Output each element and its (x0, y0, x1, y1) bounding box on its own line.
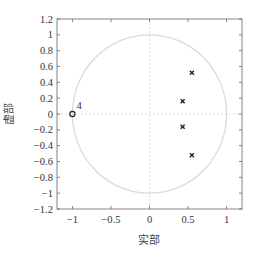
x-axis-label: 实部 (138, 233, 160, 246)
y-tick-label: 0 (48, 109, 53, 120)
x-axis-ticks: −1−0.500.51 (67, 19, 229, 225)
plot-area: 4 (57, 19, 242, 209)
y-tick-label: −0.8 (34, 172, 53, 183)
y-tick-label: −0.2 (34, 124, 53, 135)
x-tick-label: 1 (224, 214, 229, 225)
y-axis-label: 虚部 (2, 103, 15, 125)
pole-zero-chart: 4 −1−0.500.51 1.210.80.60.40.20−0.2−0.4−… (0, 0, 259, 254)
x-tick-label: −0.5 (101, 214, 120, 225)
pole-marker (190, 153, 194, 157)
y-tick-label: −1 (42, 188, 53, 199)
y-tick-label: 0.8 (40, 45, 53, 56)
y-tick-label: −1.2 (34, 204, 53, 215)
x-tick-label: 0 (147, 214, 152, 225)
pole-marker (181, 99, 185, 103)
x-tick-label: 0.5 (181, 214, 194, 225)
y-tick-label: 0.4 (40, 77, 54, 88)
pole-marker (181, 125, 185, 129)
pole-marker (190, 71, 194, 75)
y-tick-label: −0.4 (34, 140, 54, 151)
y-tick-label: 1 (48, 29, 53, 40)
y-tick-label: 0.6 (40, 61, 53, 72)
y-tick-label: 1.2 (40, 14, 53, 25)
multiplicity-annotation: 4 (76, 100, 82, 111)
y-tick-label: −0.6 (34, 156, 53, 167)
y-tick-label: 0.2 (40, 93, 53, 104)
x-tick-label: −1 (67, 214, 78, 225)
